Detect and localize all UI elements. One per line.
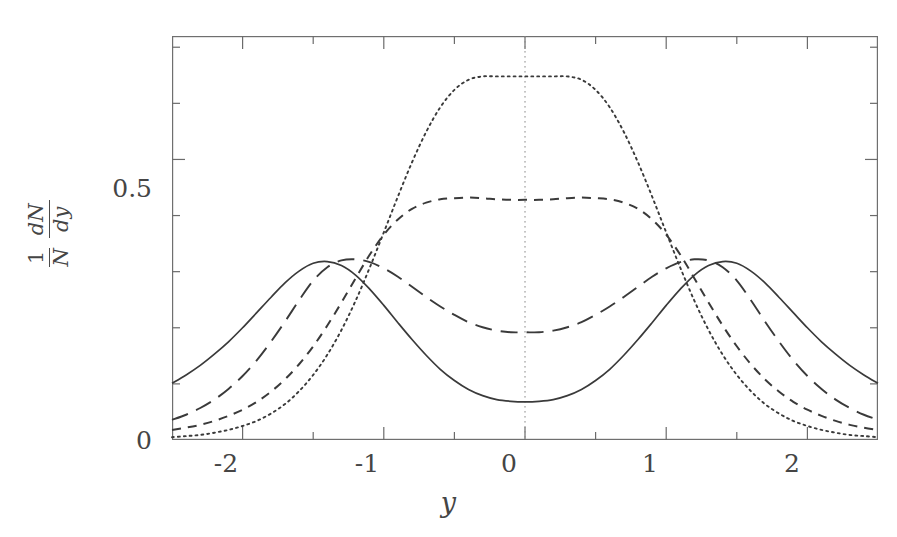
y-tick-label-half: 0.5 <box>62 174 152 203</box>
y-axis-title-fraction-dn-over-dy: dN dy <box>26 200 73 238</box>
plot-canvas <box>172 36 878 440</box>
plot-area <box>172 36 878 440</box>
x-tick-label-zero: 0 <box>479 449 539 478</box>
x-tick-label-pos2: 2 <box>762 449 822 478</box>
x-tick-label-neg1: -1 <box>337 449 397 478</box>
x-axis-title: y <box>0 487 897 518</box>
y-axis-denominator-n: N <box>50 245 73 269</box>
x-tick-label-pos1: 1 <box>620 449 680 478</box>
y-axis-title: 1 N dN dy <box>26 160 72 310</box>
x-tick-label-neg2: -2 <box>196 449 256 478</box>
y-axis-denominator-dy: dy <box>50 204 73 235</box>
y-axis-numerator-one: 1 <box>26 248 50 267</box>
figure-container: -2 -1 0 1 2 0 0.5 y 1 N dN dy <box>0 0 897 537</box>
y-tick-label-zero: 0 <box>62 426 152 455</box>
y-axis-numerator-dn: dN <box>26 200 50 238</box>
y-axis-title-fraction-one-over-n: 1 N <box>26 245 73 269</box>
curve-long-dashed <box>172 259 878 420</box>
